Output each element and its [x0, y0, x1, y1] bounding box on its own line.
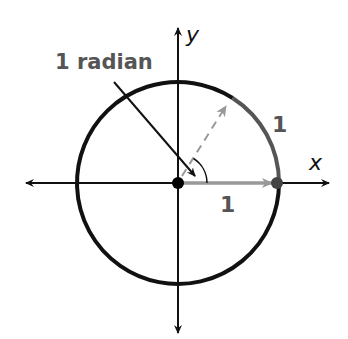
- y-axis-label: y: [186, 22, 199, 47]
- unit-circle-diagram: [0, 0, 348, 339]
- x-axis-label: x: [309, 150, 322, 175]
- radian-pointer-arrow: [114, 82, 195, 176]
- angle-marker-arc: [194, 159, 208, 184]
- radius-length-label: 1: [220, 192, 235, 217]
- arc-length-one: [233, 98, 279, 183]
- origin-point: [172, 177, 184, 189]
- arc-length-label: 1: [272, 112, 287, 137]
- radian-label: 1 radian: [55, 50, 153, 74]
- point-one-zero: [271, 177, 283, 189]
- dashed-radius-arrow: [182, 106, 226, 176]
